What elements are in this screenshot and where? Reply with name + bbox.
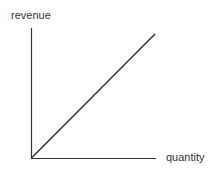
y-axis-label: revenue (11, 9, 51, 21)
revenue-quantity-diagram (0, 0, 216, 175)
revenue-line (32, 34, 156, 158)
x-axis-label: quantity (166, 151, 205, 163)
